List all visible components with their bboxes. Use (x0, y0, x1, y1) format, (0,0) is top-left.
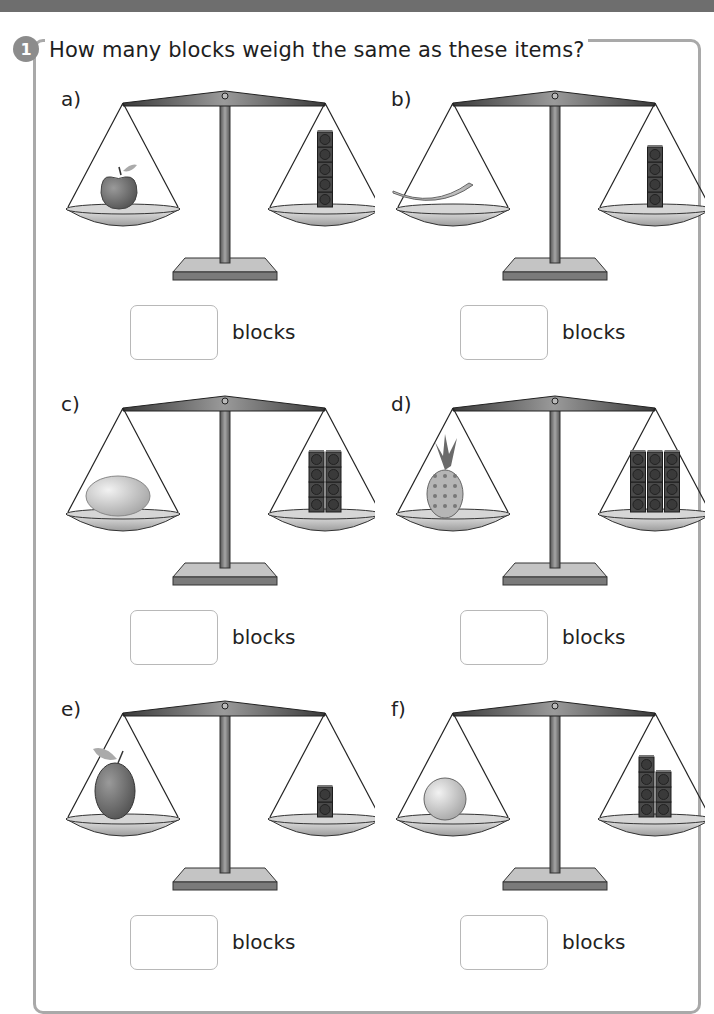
apple-icon (101, 165, 137, 209)
item-panel-a: a) blocks (55, 85, 375, 385)
unit-label: blocks (232, 930, 296, 954)
question-text: How many blocks weigh the same as these … (45, 38, 588, 62)
blocks-stack (631, 450, 680, 512)
blocks-stack (309, 450, 341, 512)
unit-label: blocks (562, 625, 626, 649)
blocks-stack (648, 145, 663, 207)
answer-input[interactable] (460, 305, 548, 360)
answer-input[interactable] (130, 305, 218, 360)
unit-label: blocks (562, 320, 626, 344)
question-number-badge: 1 (13, 36, 39, 62)
balance-scale-icon (55, 390, 375, 600)
item-panel-d: d) blocks (385, 390, 705, 690)
blocks-stack (318, 130, 333, 207)
balance-scale-icon (385, 85, 705, 295)
potato-icon (86, 476, 150, 516)
item-panel-c: c) blocks (55, 390, 375, 690)
item-panel-f: f) blocks (385, 695, 705, 995)
blocks-stack (318, 785, 333, 817)
unit-label: blocks (232, 320, 296, 344)
unit-label: blocks (562, 930, 626, 954)
top-banner-strip (0, 0, 714, 12)
unit-label: blocks (232, 625, 296, 649)
item-panel-e: e) blocks (55, 695, 375, 995)
answer-input[interactable] (460, 610, 548, 665)
answer-input[interactable] (130, 915, 218, 970)
orange-icon (424, 778, 466, 820)
balance-scale-icon (385, 390, 705, 600)
item-panel-b: b) blocks (385, 85, 705, 385)
banana-icon (393, 183, 473, 200)
answer-input[interactable] (130, 610, 218, 665)
balance-scale-icon (385, 695, 705, 905)
blocks-stack (639, 755, 671, 817)
balance-scale-icon (55, 85, 375, 295)
balance-scale-icon (55, 695, 375, 905)
answer-input[interactable] (460, 915, 548, 970)
